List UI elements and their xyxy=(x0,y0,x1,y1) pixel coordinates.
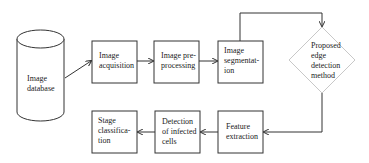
label-line: Image xyxy=(99,51,134,61)
image-database-label: Image database xyxy=(27,74,55,94)
label-line: acquisition xyxy=(99,61,134,71)
label-line: of infected xyxy=(162,127,196,137)
arrow-db-to-acquisition xyxy=(65,61,91,78)
image-acquisition-label: Image acquisition xyxy=(99,51,134,71)
stage-classification-label: Stage classifica- tion xyxy=(98,116,130,146)
label-line: Feature xyxy=(226,122,258,132)
edge-detection-label: Proposed edge detection method xyxy=(311,41,341,81)
label-line: method xyxy=(311,71,341,81)
label-line: tion xyxy=(98,136,130,146)
label-line: Proposed xyxy=(311,41,341,51)
label-line: Detection xyxy=(162,117,196,127)
label-line: processing xyxy=(161,61,196,71)
label-line: database xyxy=(27,84,55,94)
label-line: edge xyxy=(311,51,341,61)
label-line: extraction xyxy=(226,132,258,142)
label-line: cells xyxy=(162,137,196,147)
image-preprocessing-label: Image pre- processing xyxy=(161,51,196,71)
label-line: Stage xyxy=(98,116,130,126)
arrow-diamond-to-feature xyxy=(264,93,322,132)
feature-extraction-label: Feature extraction xyxy=(226,122,258,142)
label-line: Image xyxy=(224,46,259,56)
detection-infected-cells-label: Detection of infected cells xyxy=(162,117,196,147)
label-line: classifica- xyxy=(98,126,130,136)
image-segmentation-label: Image segmentat- ion xyxy=(224,46,259,76)
label-line: detection xyxy=(311,61,341,71)
label-line: Image xyxy=(27,74,55,84)
label-line: Image pre- xyxy=(161,51,196,61)
label-line: ion xyxy=(224,66,259,76)
label-line: segmentat- xyxy=(224,56,259,66)
arrow-segmentation-to-diamond xyxy=(240,13,322,41)
